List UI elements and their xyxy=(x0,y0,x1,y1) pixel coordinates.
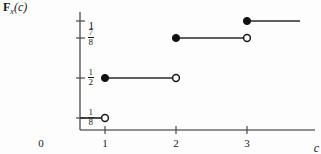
open-circle-marker-step-0-right xyxy=(102,115,109,122)
filled-circle-marker-step-1-left xyxy=(101,74,108,81)
open-circle-marker-step-1-right xyxy=(173,75,180,82)
plot-canvas xyxy=(0,0,321,154)
filled-circle-marker-step-3-left xyxy=(243,17,250,24)
filled-circle-marker-step-2-left xyxy=(172,34,179,41)
cdf-step-plot-figure: Fx(c) c 1 7 8 1 2 1 8 0 1 2 3 xyxy=(0,0,321,154)
open-circle-marker-step-2-right xyxy=(244,35,251,42)
